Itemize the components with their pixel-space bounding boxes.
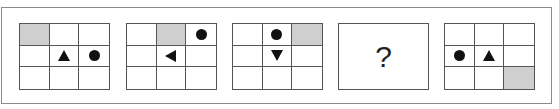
grid-cell (127, 46, 157, 68)
grid-cell (157, 46, 187, 68)
grid-cell (50, 67, 80, 89)
grid-cell (263, 46, 293, 68)
grid-cell (475, 46, 505, 68)
panel-2 (126, 23, 217, 90)
panel-3 (232, 23, 323, 90)
grid-cell (233, 46, 263, 68)
panel-4[interactable]: ? (338, 23, 429, 90)
grid-cell (79, 46, 109, 68)
shaded-cell (157, 24, 187, 46)
grid-cell (263, 67, 293, 89)
grid-cell (445, 24, 475, 46)
triangle-up-icon (58, 50, 70, 61)
grid-3x3 (126, 23, 217, 90)
grid-cell (79, 67, 109, 89)
grid-cell (504, 46, 534, 68)
grid-cell (233, 24, 263, 46)
triangle-left-icon (165, 50, 176, 62)
grid-cell (445, 67, 475, 89)
shaded-cell (292, 24, 322, 46)
grid-cell (20, 46, 50, 68)
grid-3x3 (444, 23, 535, 90)
grid-cell (157, 67, 187, 89)
grid-cell (79, 24, 109, 46)
grid-3x3 (19, 23, 110, 90)
grid-cell (20, 67, 50, 89)
grid-cell (475, 67, 505, 89)
grid-cell (186, 46, 216, 68)
grid-cell (127, 24, 157, 46)
grid-cell (263, 24, 293, 46)
grid-cell (292, 46, 322, 68)
grid-cell (504, 24, 534, 46)
grid-3x3 (232, 23, 323, 90)
panel-1 (19, 23, 110, 90)
grid-cell (292, 67, 322, 89)
triangle-down-icon (271, 50, 283, 61)
grid-cell (127, 67, 157, 89)
grid-cell (475, 24, 505, 46)
shaded-cell (20, 24, 50, 46)
grid-cell (233, 67, 263, 89)
circle-icon (454, 50, 465, 61)
grid-cell (186, 67, 216, 89)
circle-icon (271, 29, 282, 40)
panel-5 (444, 23, 535, 90)
grid-cell (50, 46, 80, 68)
grid-cell (445, 46, 475, 68)
shaded-cell (504, 67, 534, 89)
question-mark: ? (338, 23, 429, 90)
grid-cell (50, 24, 80, 46)
circle-icon (89, 50, 100, 61)
triangle-up-icon (483, 50, 495, 61)
grid-cell (186, 24, 216, 46)
circle-icon (196, 29, 207, 40)
